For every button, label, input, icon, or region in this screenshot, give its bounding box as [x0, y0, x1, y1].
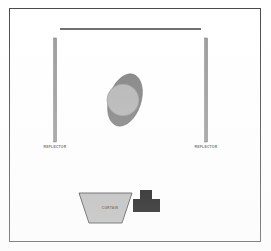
- reflector-label-right: REFLECTOR: [195, 145, 218, 149]
- t-shaped-block[interactable]: [133, 190, 160, 212]
- overlay-circle-shape[interactable]: [107, 84, 139, 116]
- curtain-label: CURTAIN: [102, 206, 118, 210]
- reflector-bar-left[interactable]: [54, 38, 57, 142]
- diagram-canvas: [0, 0, 271, 251]
- diagram-root: REFLECTOR REFLECTOR CURTAIN: [0, 0, 271, 251]
- reflector-label-left: REFLECTOR: [44, 145, 67, 149]
- reflector-bar-right[interactable]: [205, 38, 208, 142]
